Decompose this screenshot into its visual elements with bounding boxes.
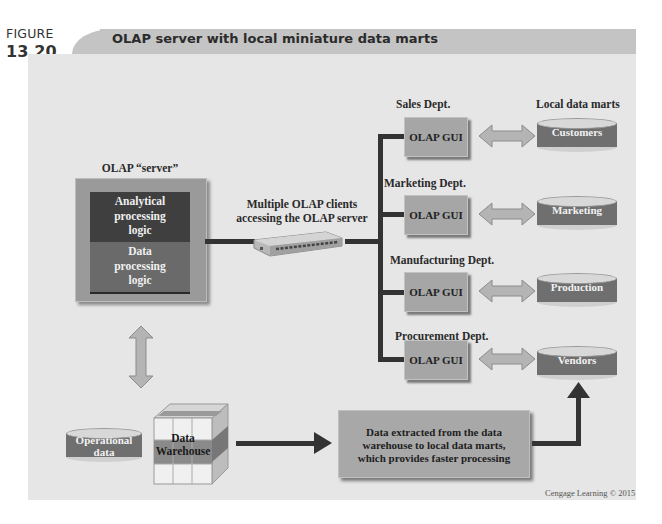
mart-customers-label: Customers [537,126,617,139]
dept-label-sales: Sales Dept. [396,98,450,110]
double-arrow-icon [478,347,536,371]
operational-line-1: Operational [66,434,142,446]
mart-vendors-label: Vendors [537,354,617,367]
extract-to-vendors-line-h [532,441,580,446]
server-heading: OLAP “server” [90,162,190,174]
branch-marketing [378,212,404,217]
analytical-line-3: logic [90,223,190,238]
olap-gui-procurement: OLAP GUI [404,340,468,380]
branch-sales [378,134,404,139]
arrow-right-icon [314,432,332,454]
mart-production: Production [537,273,617,307]
switch-to-bus-line [345,239,382,244]
extract-line-3: which provides faster processing [339,452,529,465]
branch-manufacturing [378,290,404,295]
extract-process-box: Data extracted from the data warehouse t… [338,410,530,478]
extract-to-vendors-line-v [576,395,581,446]
mart-marketing: Marketing [537,196,617,230]
network-label-line-1: Multiple OLAP clients [232,197,372,211]
olap-gui-manufacturing: OLAP GUI [404,272,468,312]
operational-line-2: data [66,446,142,458]
olap-gui-marketing: OLAP GUI [404,195,468,235]
dept-label-marketing: Marketing Dept. [384,177,466,189]
network-label-line-2: accessing the OLAP server [232,211,372,225]
dept-label-manufacturing: Manufacturing Dept. [390,254,494,266]
warehouse-line-1: Data [154,432,212,445]
data-line-3: logic [90,273,190,288]
double-arrow-icon [478,124,536,148]
warehouse-label: Data Warehouse [154,432,212,458]
data-line-1: Data [90,244,190,259]
mart-production-label: Production [537,281,617,294]
olap-gui-sales: OLAP GUI [404,117,468,157]
extract-line-1: Data extracted from the data [339,426,529,439]
figure-word: FIGURE [6,28,57,41]
mart-marketing-label: Marketing [537,204,617,217]
data-logic-block: Data processing logic [90,242,190,292]
extract-line-2: warehouse to local data marts, [339,439,529,452]
network-label: Multiple OLAP clients accessing the OLAP… [232,197,372,225]
client-bus-line [378,134,383,361]
analytical-line-1: Analytical [90,194,190,209]
double-arrow-icon [478,202,536,226]
mart-vendors: Vendors [537,346,617,380]
analytical-line-2: processing [90,209,190,224]
server-to-switch-line [205,239,255,244]
operational-data-cylinder: Operational data [66,428,142,462]
marts-heading: Local data marts [536,98,620,110]
warehouse-to-extract-line [236,441,318,446]
copyright-credit: Cengage Learning © 2015 [545,488,635,498]
arrow-up-icon [567,382,590,398]
warehouse-line-2: Warehouse [154,445,212,458]
vertical-double-arrow-icon [128,325,154,389]
double-arrow-icon [478,279,536,303]
data-line-2: processing [90,259,190,274]
network-switch-icon [250,228,346,260]
analytical-logic-block: Analytical processing logic [90,192,190,242]
figure-title: OLAP server with local miniature data ma… [112,31,438,46]
mart-customers: Customers [537,118,617,152]
branch-procurement [378,357,404,362]
